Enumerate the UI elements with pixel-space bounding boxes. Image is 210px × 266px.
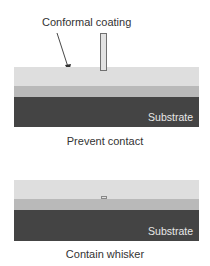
whisker-protruding <box>100 33 107 71</box>
intermediate-layer <box>14 199 199 210</box>
caption-contain-whisker: Contain whisker <box>0 248 210 260</box>
intermediate-layer <box>14 86 199 97</box>
substrate-label: Substrate <box>148 225 193 237</box>
substrate-layer: Substrate <box>14 97 199 127</box>
whisker-contained <box>101 196 107 199</box>
caption-prevent-contact: Prevent contact <box>0 135 210 147</box>
substrate-layer: Substrate <box>14 210 199 241</box>
substrate-label: Substrate <box>148 111 193 123</box>
